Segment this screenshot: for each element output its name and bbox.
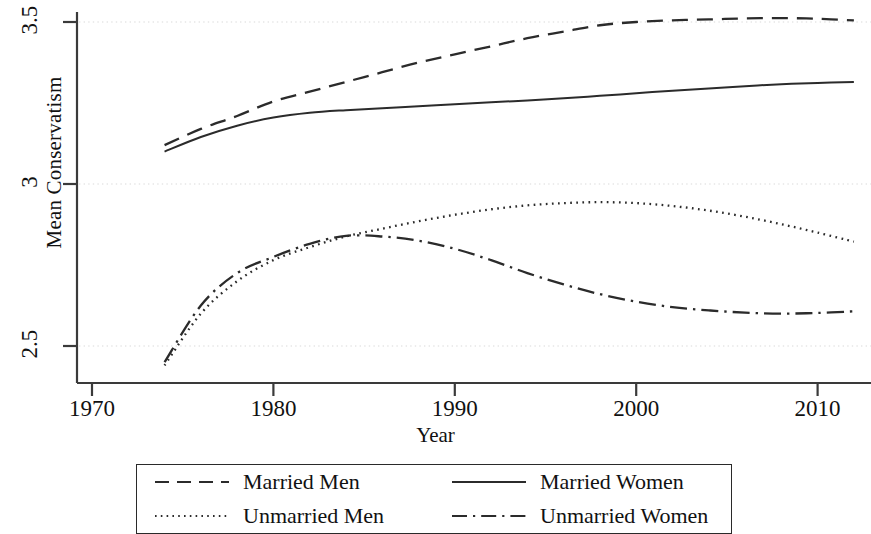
y-axis-label: Mean Conservatism <box>42 13 67 313</box>
legend-label-married-men: Married Men <box>243 469 360 495</box>
chart-legend: Married Men Married Women Unmarried Men … <box>136 464 732 534</box>
legend-swatch-dashed <box>153 475 231 489</box>
legend-entry-married-women: Married Women <box>434 469 731 495</box>
legend-label-unmarried-men: Unmarried Men <box>243 503 384 529</box>
x-tick-label: 1970 <box>52 396 132 422</box>
legend-label-unmarried-women: Unmarried Women <box>540 503 708 529</box>
legend-swatch-dotted <box>153 509 231 523</box>
x-tick-marks <box>92 383 818 396</box>
legend-swatch-dash-dot <box>450 509 528 523</box>
series-line-married-men <box>165 18 854 145</box>
legend-entry-unmarried-women: Unmarried Women <box>434 503 731 529</box>
x-tick-label: 1980 <box>233 396 313 422</box>
legend-label-married-women: Married Women <box>540 469 684 495</box>
grid-lines <box>79 22 871 346</box>
legend-entry-unmarried-men: Unmarried Men <box>137 503 434 529</box>
y-tick-label: 3.5 <box>17 0 43 50</box>
series-line-unmarried-men <box>165 202 854 365</box>
x-tick-label: 2000 <box>596 396 676 422</box>
series-line-married-women <box>165 82 854 152</box>
x-tick-label: 1990 <box>415 396 495 422</box>
x-axis-label: Year <box>0 423 871 448</box>
x-tick-label: 2010 <box>778 396 858 422</box>
y-tick-label: 2.5 <box>17 314 43 374</box>
chart-figure: Mean Conservatism Year 2.533.5 197019801… <box>0 0 871 534</box>
legend-entry-married-men: Married Men <box>137 469 434 495</box>
legend-swatch-solid <box>450 475 528 489</box>
series-line-unmarried-women <box>165 235 854 362</box>
line-chart-plot <box>0 0 871 534</box>
series-paths <box>165 18 854 365</box>
y-tick-label: 3 <box>17 152 43 212</box>
